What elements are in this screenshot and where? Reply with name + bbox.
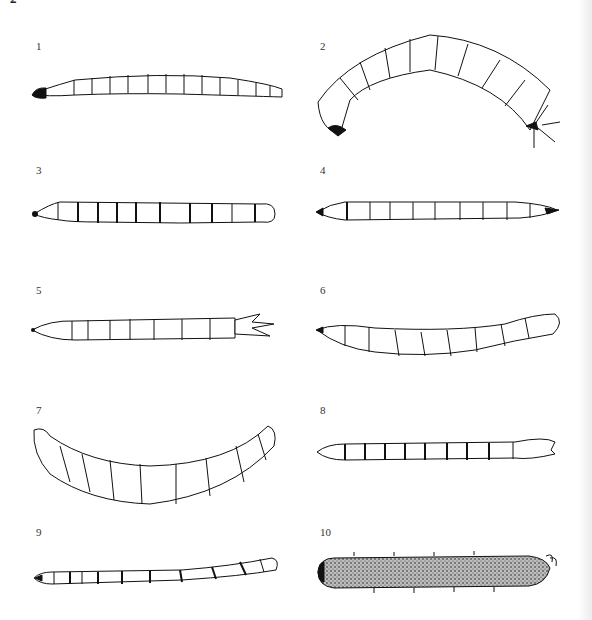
panel-label: 7 [36, 404, 42, 416]
panel-label: 3 [36, 164, 42, 176]
larva-drawing-4 [315, 196, 565, 226]
larva-drawing-10 [314, 550, 564, 600]
larva-drawing-8 [315, 432, 565, 472]
panel-label: 10 [320, 526, 331, 538]
panel-label: 6 [320, 284, 326, 296]
larva-drawing-2 [310, 30, 560, 150]
larva-drawing-5 [30, 314, 280, 344]
panel-label: 5 [36, 284, 42, 296]
larva-drawing-3 [30, 190, 280, 230]
panel-label: 9 [36, 526, 42, 538]
larva-drawing-1 [30, 70, 290, 100]
page-binding-shadow [578, 0, 592, 620]
panel-label: 4 [320, 164, 326, 176]
larva-drawing-6 [315, 310, 565, 365]
panel-label: 1 [36, 40, 42, 52]
larva-drawing-7 [30, 424, 280, 514]
larva-drawing-9 [32, 550, 282, 590]
page-number-fragment: 2 [10, 0, 17, 7]
panel-label: 8 [320, 404, 326, 416]
